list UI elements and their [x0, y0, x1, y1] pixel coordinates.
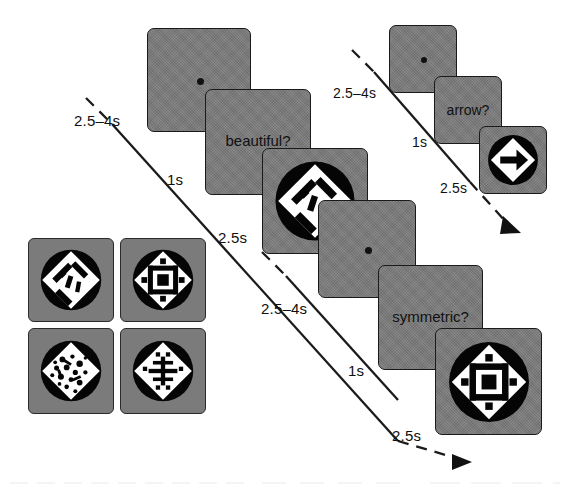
paradigm-figure: beautiful? 2.5–4s 1s 2.5s	[0, 0, 573, 488]
duration-label-symmetric-fixation: 2.5–4s	[261, 300, 307, 317]
stimulus-thumb-top-right	[120, 238, 206, 322]
stimulus-thumb-top-left	[28, 238, 114, 322]
cue-label-beautiful: beautiful?	[206, 132, 310, 149]
cue-label-arrow: arrow?	[435, 102, 501, 118]
duration-label-arrow-stimulus: 2.5s	[440, 180, 467, 196]
fixation-dot	[365, 247, 372, 254]
example-stimuli-grid	[28, 238, 210, 416]
duration-label-beautiful-fixation: 2.5–4s	[74, 112, 120, 129]
duration-label-symmetric-stimulus: 2.5s	[392, 427, 421, 444]
cue-label-symmetric: symmetric?	[379, 308, 482, 325]
stimulus-arrow-diamond-right	[484, 131, 542, 189]
stimulus-card-symmetric	[435, 328, 542, 435]
duration-label-arrow-fixation: 2.5–4s	[333, 85, 376, 101]
duration-label-symmetric-cue: 1s	[348, 362, 364, 379]
stimulus-symmetric-diamond-crosshatch	[127, 335, 199, 407]
stimulus-asymmetric-diamond-speckled	[35, 335, 107, 407]
duration-label-beautiful-stimulus: 2.5s	[218, 229, 247, 246]
stimulus-asymmetric-diamond-slashes	[35, 244, 107, 316]
fixation-dot	[197, 78, 204, 85]
duration-label-arrow-cue: 1s	[412, 134, 427, 150]
fixation-dot	[421, 57, 427, 63]
stimulus-symmetric-diamond-nested-square	[127, 244, 199, 316]
duration-label-beautiful-cue: 1s	[167, 171, 183, 188]
stimulus-symmetric-diamond-nested-square	[442, 335, 535, 428]
stimulus-thumb-bottom-right	[120, 328, 206, 414]
stimulus-card-arrow	[479, 126, 547, 194]
stimulus-thumb-bottom-left	[28, 328, 114, 414]
